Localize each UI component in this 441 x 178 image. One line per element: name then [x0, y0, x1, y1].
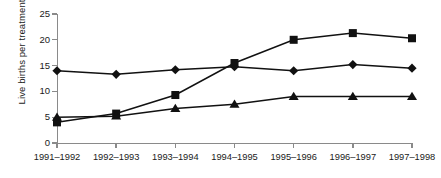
plot-area: 0510152025 1991–19921992–19931993–199419… — [57, 14, 412, 143]
x-axis-tick-label: 1997–1998 — [389, 153, 436, 162]
data-point-diamond — [171, 65, 180, 74]
data-point-square — [408, 34, 416, 42]
x-axis-tick — [352, 143, 353, 148]
data-point-square — [231, 59, 239, 67]
x-axis-tick — [411, 143, 412, 148]
x-axis-tick-label: 1991–1992 — [34, 153, 81, 162]
data-point-square — [171, 91, 179, 99]
data-point-diamond — [52, 66, 61, 75]
x-axis-tick — [115, 143, 116, 148]
y-axis-tick-label: 5 — [45, 112, 50, 122]
data-point-square — [290, 36, 298, 44]
y-axis-tick-label: 15 — [39, 61, 50, 71]
y-axis-tick-label: 10 — [39, 87, 50, 97]
data-point-square — [349, 29, 357, 37]
x-axis-tick — [175, 143, 176, 148]
x-axis-tick-label: 1993–1994 — [152, 153, 199, 162]
data-point-diamond — [289, 66, 298, 75]
x-axis-tick-label: 1996–1997 — [330, 153, 377, 162]
series-square — [53, 29, 416, 126]
y-axis-title: Live births per treatment cycle — [16, 0, 27, 105]
line-chart: Live births per treatment cycle 05101520… — [0, 0, 441, 178]
series-triangle — [52, 92, 417, 121]
series-layer — [57, 14, 412, 143]
x-axis-tick-label: 1994–1995 — [211, 153, 258, 162]
data-point-diamond — [407, 64, 416, 73]
x-axis-tick-label: 1995–1996 — [270, 153, 317, 162]
x-axis-tick-label: 1992–1993 — [93, 153, 140, 162]
y-axis-tick-label: 20 — [39, 35, 50, 45]
data-point-diamond — [112, 70, 121, 79]
y-axis-tick-label: 25 — [39, 9, 50, 19]
x-axis-tick — [293, 143, 294, 148]
y-axis-tick-label: 0 — [45, 138, 50, 148]
series-line — [57, 33, 412, 122]
data-point-diamond — [348, 60, 357, 69]
x-axis-tick — [56, 143, 57, 148]
x-axis-tick — [234, 143, 235, 148]
